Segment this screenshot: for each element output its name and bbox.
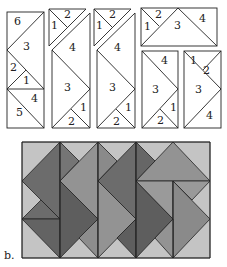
label: 2	[109, 8, 116, 21]
label: 2	[113, 115, 120, 128]
label: 5	[16, 106, 23, 119]
label: 4	[206, 109, 213, 122]
figure-caption: b.	[4, 249, 15, 262]
label: 3	[23, 40, 30, 53]
label: 1	[170, 101, 177, 114]
label: 4	[161, 54, 168, 67]
label: 6	[14, 15, 21, 28]
label: 1	[23, 74, 30, 87]
label: 1	[190, 54, 197, 67]
label: 2	[155, 8, 162, 21]
label: 2	[157, 114, 164, 127]
top-pieces	[7, 8, 221, 128]
label: 4	[199, 12, 206, 25]
label: 3	[64, 81, 71, 94]
dissection-figure: 6 3 2 1 4 5 1 2 4 3 1 2 1 2 4 3 1 2 1 2 …	[0, 0, 227, 267]
label: 2	[64, 8, 71, 21]
label: 1	[80, 101, 87, 114]
label: 4	[31, 92, 38, 105]
label: 1	[51, 19, 58, 32]
label: 1	[125, 101, 132, 114]
label: 3	[152, 83, 159, 96]
label: 3	[195, 83, 202, 96]
label: 2	[10, 61, 17, 74]
label: 1	[144, 20, 151, 33]
label: 4	[114, 41, 121, 54]
tessellation	[22, 142, 210, 258]
label: 2	[68, 115, 75, 128]
label: 3	[174, 19, 181, 32]
label: 2	[203, 64, 210, 77]
label: 4	[69, 41, 76, 54]
label: 3	[109, 81, 116, 94]
label: 1	[96, 19, 103, 32]
